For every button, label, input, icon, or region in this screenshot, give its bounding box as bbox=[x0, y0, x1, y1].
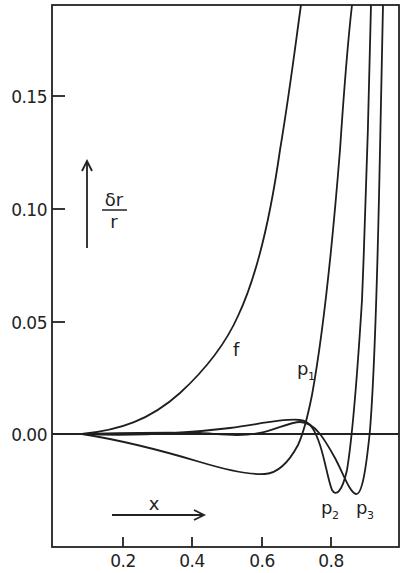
label-f: f bbox=[233, 339, 240, 360]
label-p1-sub: 1 bbox=[308, 370, 315, 383]
x-axis-label: x bbox=[112, 493, 204, 520]
y-tick-label: 0.05 bbox=[11, 313, 47, 333]
label-p1-main: p bbox=[297, 358, 308, 379]
y-axis: 0.15 0.10 0.05 0.00 bbox=[11, 87, 65, 445]
x-tick-label: 0.2 bbox=[110, 551, 136, 571]
x-tick-label: 0.6 bbox=[249, 551, 275, 571]
label-p2-sub: 2 bbox=[332, 509, 339, 522]
curve-p3 bbox=[82, 5, 383, 494]
ylabel-denominator: r bbox=[110, 211, 118, 232]
x-axis: 0.2 0.4 0.6 0.8 bbox=[110, 537, 344, 571]
x-tick-label: 0.8 bbox=[318, 551, 344, 571]
label-p2-main: p bbox=[321, 497, 332, 518]
curves bbox=[82, 5, 383, 494]
curve-p2 bbox=[82, 5, 371, 493]
ylabel-numerator: δr bbox=[105, 189, 124, 210]
label-p1: p 1 bbox=[297, 358, 315, 383]
y-tick-label: 0.00 bbox=[11, 425, 47, 445]
chart: 0.15 0.10 0.05 0.00 0.2 0.4 0.6 0.8 f p … bbox=[0, 0, 404, 573]
x-tick-label: 0.4 bbox=[179, 551, 205, 571]
y-tick-label: 0.15 bbox=[11, 87, 47, 107]
y-tick-label: 0.10 bbox=[11, 200, 47, 220]
label-p2: p 2 bbox=[321, 497, 339, 522]
xlabel: x bbox=[149, 493, 160, 514]
label-p3: p 3 bbox=[356, 497, 374, 522]
label-p3-sub: 3 bbox=[367, 509, 374, 522]
curve-p1 bbox=[82, 5, 352, 474]
label-p3-main: p bbox=[356, 497, 367, 518]
y-axis-label: δr r bbox=[82, 161, 127, 248]
